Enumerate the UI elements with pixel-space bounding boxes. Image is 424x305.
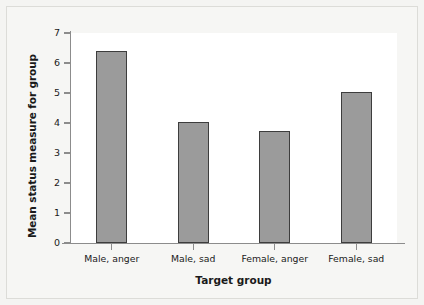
y-tick-label: 1 xyxy=(44,208,60,218)
y-axis-title: Mean status measure for group xyxy=(26,36,38,256)
y-tick-mark xyxy=(64,62,71,63)
x-tick-mark xyxy=(111,244,112,250)
y-tick-label: 5 xyxy=(44,88,60,98)
bar xyxy=(96,51,127,243)
x-tick-mark xyxy=(274,244,275,250)
y-tick-mark xyxy=(64,152,71,153)
y-tick-label: 4 xyxy=(44,118,60,128)
y-tick-label: 2 xyxy=(44,178,60,188)
y-tick-mark xyxy=(64,212,71,213)
x-axis-title: Target group xyxy=(62,274,405,286)
y-tick-label: 0 xyxy=(44,238,60,248)
bar xyxy=(178,122,209,244)
y-tick-label: 7 xyxy=(44,28,60,38)
bar xyxy=(259,131,290,244)
y-tick-label: 3 xyxy=(44,148,60,158)
y-tick-mark xyxy=(64,32,71,33)
bar xyxy=(341,92,372,244)
x-tick-label: Female, sad xyxy=(301,254,411,263)
figure: Mean status measure for group Target gro… xyxy=(0,0,424,305)
x-tick-mark xyxy=(356,244,357,250)
y-tick-label: 6 xyxy=(44,58,60,68)
y-tick-mark xyxy=(64,182,71,183)
x-tick-mark xyxy=(193,244,194,250)
y-tick-mark xyxy=(64,122,71,123)
y-tick-mark xyxy=(64,242,71,243)
x-axis-line xyxy=(62,243,405,244)
y-tick-mark xyxy=(64,92,71,93)
